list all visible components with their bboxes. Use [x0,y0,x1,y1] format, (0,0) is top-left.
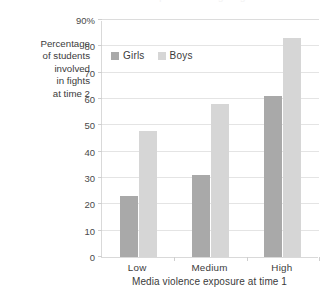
y-axis-tick [98,230,102,231]
legend-label-girls: Girls [123,50,145,61]
y-axis-tick [98,151,102,152]
y-axis-tick-label: 60 [62,94,95,105]
legend-item-girls: Girls [111,50,145,61]
y-axis-tick [98,256,102,257]
legend-item-boys: Boys [158,50,193,61]
legend-swatch-boys [158,52,166,60]
bar-high-boys [283,38,301,257]
y-axis-tick [98,124,102,125]
y-axis-tick-label: 90% [62,15,95,26]
x-axis-title: Media violence exposure at time 1 [101,276,318,287]
y-axis-tick [98,177,102,178]
x-axis-tick-labels: LowMediumHigh [0,262,326,276]
y-axis-tick [98,98,102,99]
bar-medium-girls [192,175,210,257]
bar-chart-figure: Media violence exposure and fighting Per… [0,0,326,291]
y-axis-tick-label: 20 [62,199,95,210]
x-axis-tick [247,257,248,261]
y-axis-tick [98,45,102,46]
y-axis-tick [98,19,102,20]
x-axis-category-label: Medium [191,262,227,273]
bar-low-girls [120,196,138,257]
y-axis-tick-label: 40 [62,147,95,158]
y-axis-tick-label: 10 [62,226,95,237]
y-axis-tick [98,72,102,73]
x-axis-tick [174,257,175,261]
y-axis-tick [98,203,102,204]
x-axis-category-label: High [271,262,292,273]
bar-low-boys [139,131,157,257]
y-axis-tick-label: 70 [62,68,95,79]
chart-legend: Girls Boys [111,50,193,61]
legend-swatch-girls [111,52,119,60]
bar-high-girls [264,96,282,257]
y-axis-tick-label: 30 [62,173,95,184]
y-axis-tick-label: 80 [62,41,95,52]
gridline [102,19,319,20]
y-axis-tick-label: 50 [62,120,95,131]
bar-medium-boys [211,104,229,257]
x-axis-tick [319,257,320,261]
legend-label-boys: Boys [170,50,193,61]
x-axis-category-label: Low [128,262,147,273]
